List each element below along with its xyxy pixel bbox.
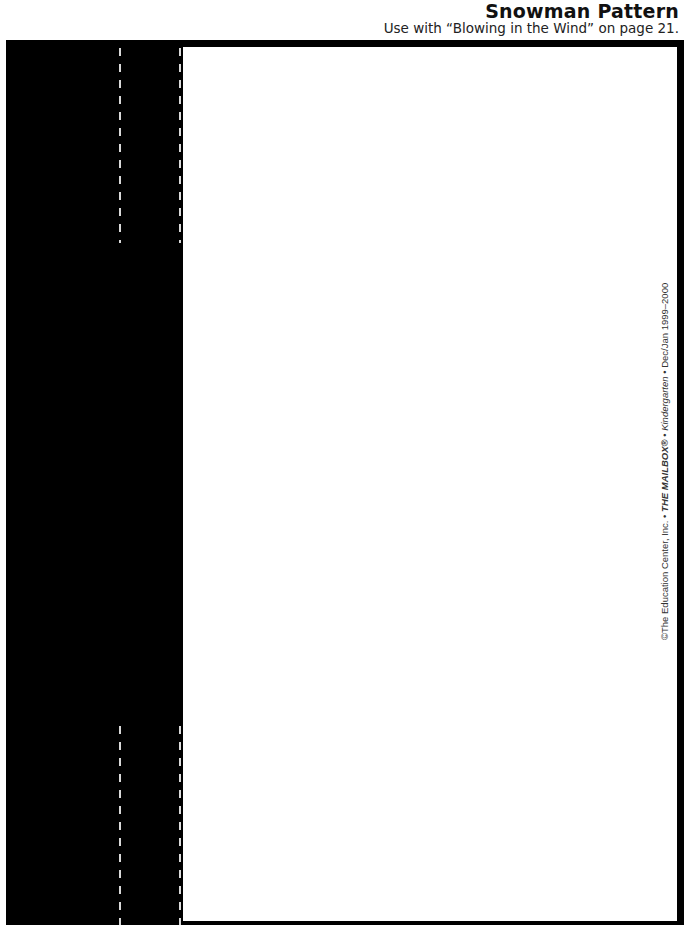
- cut-line-left-top: [119, 48, 121, 243]
- pattern-sheet: [6, 40, 684, 925]
- cut-line-left-bottom: [119, 726, 121, 925]
- copyright-magazine: THE MAILBOX®: [659, 439, 670, 511]
- copyright-notice: ©The Education Center, Inc. • THE MAILBO…: [659, 283, 670, 640]
- page-title: Snowman Pattern: [384, 0, 679, 22]
- white-pattern-area: [182, 40, 684, 925]
- page-subtitle: Use with “Blowing in the Wind” on page 2…: [384, 20, 679, 36]
- page-header: Snowman Pattern Use with “Blowing in the…: [384, 0, 679, 36]
- cut-line-right-bottom: [179, 726, 181, 925]
- copyright-separator: •: [659, 431, 670, 440]
- cut-line-right-top: [179, 48, 181, 243]
- black-panel: [6, 40, 183, 925]
- copyright-prefix: ©The Education Center, Inc. •: [659, 512, 670, 640]
- copyright-date: • Dec/Jan 1999–2000: [659, 283, 670, 377]
- copyright-edition: Kindergarten: [659, 376, 670, 430]
